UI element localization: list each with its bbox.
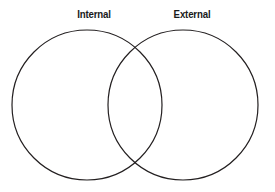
venn-diagram-figure: Internal External bbox=[0, 0, 275, 192]
venn-label-external: External bbox=[159, 7, 226, 21]
venn-label-internal: Internal bbox=[61, 7, 128, 21]
figure-background bbox=[0, 0, 275, 192]
venn-diagram-canvas bbox=[0, 0, 275, 192]
